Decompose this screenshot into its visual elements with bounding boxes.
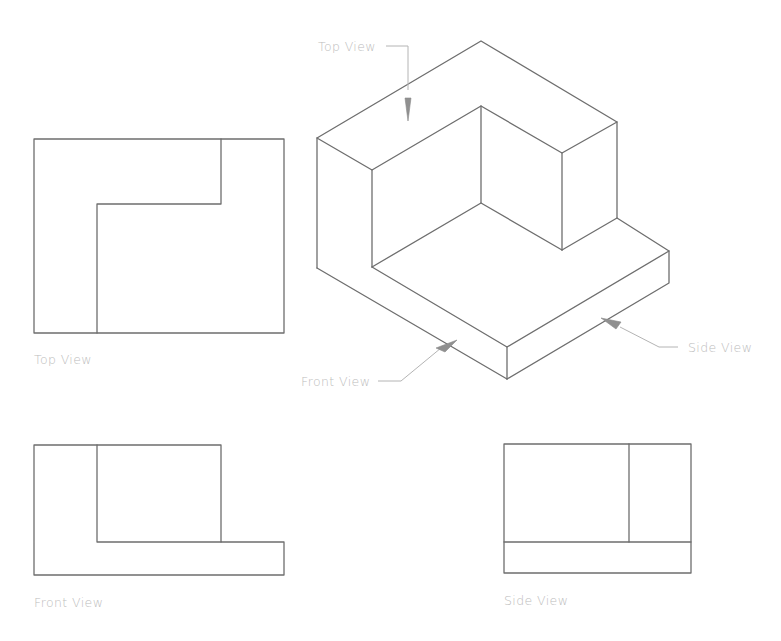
callout-side-view: Side View: [601, 318, 752, 355]
iso-ledge-top: [372, 218, 669, 347]
callout-front-view-label: Front View: [301, 374, 370, 389]
side-view-label: Side View: [504, 593, 568, 608]
isometric-view: Top View Front View Side View: [301, 39, 752, 389]
callout-top-view: Top View: [318, 39, 411, 121]
top-view: Top View: [34, 139, 284, 367]
callout-side-leader-line: [620, 327, 678, 347]
top-view-outline: [34, 139, 284, 333]
arrow-down-icon: [405, 98, 411, 121]
arrow-up-right-icon: [436, 340, 457, 352]
front-view: Front View: [34, 445, 284, 610]
callout-front-leader-line: [378, 348, 441, 381]
projection-diagram: Top View Front View Side View Top View F…: [0, 0, 781, 641]
front-view-outline: [34, 445, 284, 575]
iso-top-outline: [317, 41, 617, 170]
side-view: Side View: [504, 444, 691, 608]
iso-floor-back-edges: [372, 203, 562, 267]
arrow-up-left-icon: [601, 318, 621, 329]
side-view-outline: [504, 444, 691, 573]
callout-side-view-label: Side View: [688, 340, 752, 355]
iso-left-bottom-edge: [317, 268, 507, 379]
callout-front-view: Front View: [301, 340, 457, 389]
top-view-step-line: [97, 139, 221, 333]
top-view-label: Top View: [34, 352, 92, 367]
callout-top-leader-line: [386, 46, 408, 90]
callout-top-view-label: Top View: [318, 39, 376, 54]
iso-ledge-front-side: [507, 251, 669, 379]
front-view-label: Front View: [34, 595, 103, 610]
front-view-inner-lines: [97, 445, 221, 542]
